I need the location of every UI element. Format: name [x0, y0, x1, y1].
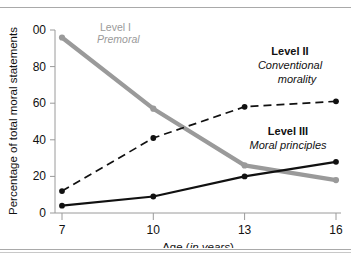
- annotation-level-i-title: Level I: [100, 21, 131, 33]
- data-point: [150, 106, 156, 112]
- x-axis-ticks: [62, 213, 336, 220]
- bottom-divider-rule-secondary: [0, 252, 351, 253]
- figure-container: 00 80 60 40 20 0 7 10 13 16 Percentage o…: [0, 0, 351, 263]
- x-tick-label-10: 10: [147, 223, 161, 237]
- y-tick-label-20: 20: [33, 169, 47, 183]
- y-axis-title: Percentage of total moral statements: [7, 27, 19, 215]
- data-point: [59, 188, 65, 194]
- x-tick-label-16: 16: [329, 223, 343, 237]
- data-point: [59, 203, 65, 209]
- x-axis-title-emphasis: in years: [190, 241, 231, 248]
- y-tick-label-100: 00: [33, 23, 47, 37]
- line-chart: 00 80 60 40 20 0 7 10 13 16 Percentage o…: [0, 8, 351, 248]
- annotation-level-ii-subtitle-line2: morality: [278, 73, 318, 85]
- y-tick-label-40: 40: [33, 133, 47, 147]
- annotation-level-iii-subtitle: Moral principles: [249, 139, 327, 151]
- y-tick-label-80: 80: [33, 60, 47, 74]
- data-point: [150, 194, 156, 200]
- data-point: [333, 159, 339, 165]
- data-point: [242, 104, 248, 110]
- x-tick-label-7: 7: [59, 223, 66, 237]
- bottom-divider-rule: [0, 249, 351, 250]
- x-axis-title-plain: Age (: [162, 241, 190, 248]
- data-point: [59, 34, 65, 40]
- data-point: [333, 98, 339, 104]
- data-point: [150, 135, 156, 141]
- annotation-level-ii-subtitle-line1: Conventional: [258, 59, 323, 71]
- x-axis-title: Age (in years): [162, 241, 234, 248]
- x-axis-title-tail: ): [230, 241, 234, 248]
- annotation-level-iii-title: Level III: [268, 125, 308, 137]
- x-tick-label-13: 13: [238, 223, 252, 237]
- y-tick-label-60: 60: [33, 96, 47, 110]
- series-line-level-iii-principles: [62, 162, 336, 206]
- annotation-level-ii-title: Level II: [271, 45, 308, 57]
- data-point: [333, 177, 339, 183]
- data-point: [242, 162, 248, 168]
- data-point: [242, 174, 248, 180]
- y-axis-ticks: [50, 30, 55, 213]
- annotation-level-i-subtitle: Premoral: [97, 33, 140, 45]
- y-tick-label-0: 0: [39, 206, 46, 220]
